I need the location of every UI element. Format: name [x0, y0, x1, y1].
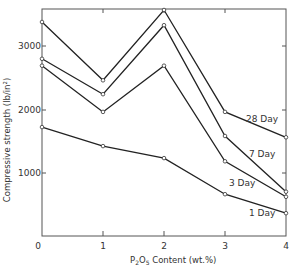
series-label-7-day: 7 Day	[249, 149, 276, 159]
y-tick-3000: 3000	[18, 41, 41, 51]
x-tick-2: 2	[161, 241, 167, 251]
x-tick-3: 3	[222, 241, 228, 251]
series-label-3-day: 3 Day	[229, 178, 256, 188]
series-line-1-day	[42, 127, 286, 213]
data-point-marker	[101, 92, 105, 96]
svg-text:P2O5 Content (wt.%): P2O5 Content (wt.%)	[130, 255, 216, 266]
data-point-marker	[40, 20, 44, 24]
data-point-marker	[40, 64, 44, 68]
series-label-1-day: 1 Day	[249, 208, 276, 218]
data-point-marker	[223, 192, 227, 196]
data-point-marker	[40, 57, 44, 61]
line-chart: 0 1 2 3 4 1000 2000 3000 Compressive str…	[0, 0, 294, 266]
series-label-28-day: 28 Day	[246, 114, 279, 124]
series-1-day	[40, 125, 288, 215]
data-point-marker	[284, 211, 288, 215]
data-point-marker	[284, 136, 288, 140]
data-point-marker	[101, 110, 105, 114]
x-tick-0: 0	[35, 241, 41, 251]
y-axis-title: Compressive strength (lb/in²)	[2, 78, 12, 202]
data-point-marker	[40, 125, 44, 129]
x-axis-title: P2O5 Content (wt.%)	[130, 255, 216, 266]
y-tick-2000: 2000	[18, 105, 41, 115]
data-point-marker	[223, 110, 227, 114]
data-point-marker	[101, 144, 105, 148]
series-line-7-day	[42, 25, 286, 192]
data-point-marker	[162, 64, 166, 68]
data-point-marker	[162, 23, 166, 27]
data-point-marker	[162, 8, 166, 12]
data-point-marker	[101, 79, 105, 83]
data-point-marker	[284, 195, 288, 199]
data-point-marker	[223, 160, 227, 164]
x-axis-ticks	[103, 9, 225, 236]
x-tick-1: 1	[100, 241, 106, 251]
series-7-day	[40, 23, 288, 193]
data-point-marker	[162, 156, 166, 160]
x-tick-4: 4	[283, 241, 289, 251]
y-tick-1000: 1000	[18, 168, 41, 178]
data-point-marker	[223, 134, 227, 138]
data-point-marker	[284, 190, 288, 194]
